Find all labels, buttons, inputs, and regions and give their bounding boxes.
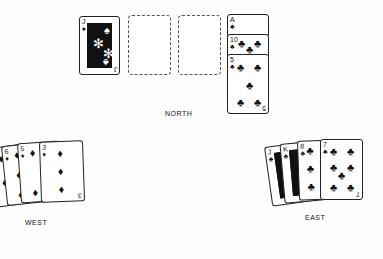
player-label-east: EAST (305, 214, 325, 221)
card-rank: J♠ (82, 18, 86, 32)
east-card-7-clubs[interactable]: 7♣ ♣ ♣ ♣ ♣ ♣ ♣ ♣ 7 (320, 139, 363, 200)
face-card-art: ✻ ✻ ♠ ♠ (87, 23, 112, 68)
trick-slot-empty[interactable] (178, 15, 221, 75)
west-card-3-diamonds[interactable]: 3♦ ♦ ♦ ♦ 3 (39, 140, 85, 202)
player-label-north: NORTH (165, 110, 192, 117)
north-card-5-clubs[interactable]: 5♣ ♣ ♣ ♣ ♣ ♣ 5 (227, 54, 269, 114)
trick-slot-empty[interactable] (128, 15, 171, 75)
card-rank-bottom: J (114, 66, 118, 73)
played-card-jack-spades: J♠ ✻ ✻ ♠ ♠ J (79, 16, 120, 75)
player-label-west: WEST (25, 219, 47, 226)
